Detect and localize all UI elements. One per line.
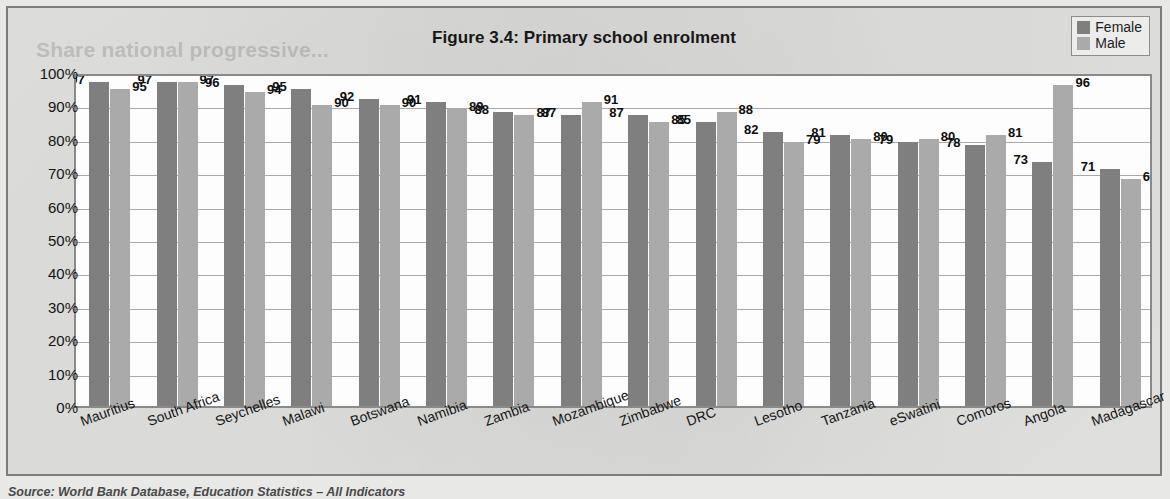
bar-value-label-female: 97: [138, 74, 152, 86]
x-axis-labels: MauritiusSouth AfricaSeychellesMalawiBot…: [74, 408, 1152, 482]
plot-area: 9795979796949590929091898887879187858588…: [74, 74, 1152, 408]
bar-group: 9797: [143, 76, 210, 406]
bar-female: [359, 99, 379, 406]
bars-layer: 9795979796949590929091898887879187858588…: [76, 76, 1150, 406]
bar-value-label-female: 88: [474, 103, 488, 116]
chart-title: Figure 3.4: Primary school enrolment: [8, 28, 1160, 48]
bar-value-label-female: 82: [744, 123, 758, 136]
y-axis-tick-mark: [67, 341, 74, 342]
y-axis-tick-mark: [67, 107, 74, 108]
bar-value-label-female: 96: [205, 76, 219, 89]
bar-value-label-female: 85: [677, 113, 691, 126]
chart-legend: Female Male: [1071, 16, 1150, 56]
bar-value-label-female: 79: [879, 133, 893, 146]
bar-female: [898, 142, 918, 406]
bar-female: [1100, 169, 1120, 406]
bar-value-label-female: 87: [609, 106, 623, 119]
y-axis-tick-mark: [67, 141, 74, 142]
bar-female: [426, 102, 446, 406]
y-axis-tick-mark: [67, 408, 74, 409]
bar-value-label-male: 68: [1143, 170, 1152, 183]
y-axis-tick-mark: [67, 308, 74, 309]
bar-group: 8785: [615, 76, 682, 406]
bar-female: [89, 82, 109, 406]
bar-male: [784, 142, 804, 406]
bar-group: 7980: [885, 76, 952, 406]
bar-group: 9189: [413, 76, 480, 406]
bar-male: [178, 82, 198, 406]
y-axis-tick-mark: [67, 375, 74, 376]
bar-female: [830, 135, 850, 406]
bar-group: 8588: [682, 76, 749, 406]
bar-group: 7168: [1087, 76, 1152, 406]
bar-male: [110, 89, 130, 406]
bar-value-label-female: 91: [407, 93, 421, 106]
y-axis-tick-mark: [67, 241, 74, 242]
x-axis-country-label: DRC: [684, 404, 718, 429]
bar-value-label-female: 92: [340, 90, 354, 103]
bar-male: [986, 135, 1006, 406]
bar-group: 9694: [211, 76, 278, 406]
bar-value-label-female: 71: [1081, 160, 1095, 173]
legend-item-female: Female: [1077, 20, 1142, 35]
legend-item-male: Male: [1077, 36, 1142, 51]
bar-group: 8279: [750, 76, 817, 406]
bar-male: [380, 105, 400, 406]
bar-female: [965, 145, 985, 406]
bar-value-label-female: 81: [811, 126, 825, 139]
bar-value-label-female: 87: [542, 106, 556, 119]
bar-male: [245, 92, 265, 406]
bar-male: [919, 139, 939, 406]
figure-page: Share national progressive... Figure 3.4…: [0, 0, 1170, 499]
bar-group: 8180: [817, 76, 884, 406]
y-axis-tick-mark: [67, 174, 74, 175]
bar-group: 9290: [346, 76, 413, 406]
bar-male: [312, 105, 332, 406]
bar-male: [649, 122, 669, 406]
y-axis-tick-mark: [67, 274, 74, 275]
bar-female: [561, 115, 581, 406]
y-axis-tick-mark: [67, 74, 74, 75]
bar-female: [157, 82, 177, 406]
figure-frame: Share national progressive... Figure 3.4…: [6, 6, 1162, 476]
bar-female: [224, 85, 244, 406]
plot-wrapper: 9795979796949590929091898887879187858588…: [74, 74, 1152, 408]
bar-male: [717, 112, 737, 406]
bar-male: [514, 115, 534, 406]
bar-male: [1121, 179, 1141, 406]
legend-label-female: Female: [1095, 20, 1142, 35]
bar-male: [582, 102, 602, 406]
legend-swatch-female: [1077, 21, 1090, 34]
bar-value-label-female: 73: [1013, 153, 1027, 166]
bar-group: 8791: [548, 76, 615, 406]
bar-value-label-female: 78: [946, 136, 960, 149]
bar-male: [851, 139, 871, 406]
bar-group: 7881: [952, 76, 1019, 406]
bar-female: [696, 122, 716, 406]
bar-female: [1032, 162, 1052, 406]
legend-swatch-male: [1077, 37, 1090, 50]
bar-male: [1053, 85, 1073, 406]
bar-female: [291, 89, 311, 406]
bar-female: [628, 115, 648, 406]
bar-group: 9795: [76, 76, 143, 406]
bar-female: [763, 132, 783, 406]
bar-male: [447, 109, 467, 406]
bar-group: 7396: [1019, 76, 1086, 406]
source-note: Source: World Bank Database, Education S…: [8, 485, 405, 499]
bar-female: [493, 112, 513, 406]
bar-group: 9590: [278, 76, 345, 406]
legend-label-male: Male: [1095, 36, 1125, 51]
bar-value-label-female: 95: [272, 80, 286, 93]
y-axis-tick-mark: [67, 208, 74, 209]
bar-group: 8887: [480, 76, 547, 406]
